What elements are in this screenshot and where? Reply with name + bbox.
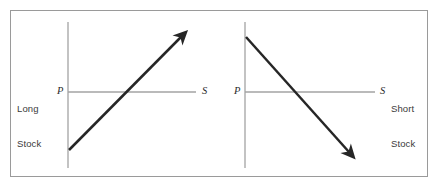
left-x-axis-label: S [202, 85, 207, 96]
short-stock-label: Short Stock [391, 80, 415, 172]
short-stock-label-line1: Short [391, 103, 415, 115]
figure-border [10, 10, 428, 177]
left-y-axis-label: P [57, 85, 63, 96]
long-stock-label: Long Stock [17, 80, 41, 172]
right-y-axis-label: P [234, 85, 240, 96]
short-stock-label-line2: Stock [391, 138, 415, 150]
long-stock-label-line2: Stock [17, 138, 41, 150]
payoff-diagram-figure: Long Stock Short Stock P S P S [0, 0, 439, 190]
long-stock-label-line1: Long [17, 103, 41, 115]
right-x-axis-label: S [380, 85, 385, 96]
